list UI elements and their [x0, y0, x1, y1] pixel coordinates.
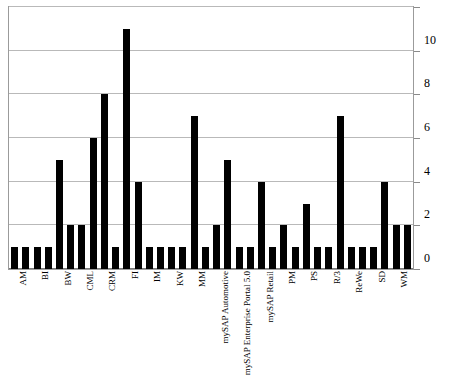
bar — [348, 247, 355, 269]
bar — [359, 247, 366, 269]
y-tick-label: 6 — [424, 121, 430, 133]
x-axis-label: WM — [400, 271, 409, 288]
bar — [123, 29, 130, 269]
bar-series — [9, 7, 413, 269]
y-tick-6 — [414, 138, 420, 139]
bar — [146, 247, 153, 269]
bar — [381, 182, 388, 269]
x-axis-labels: AMBIBWCMLCRMFIIMKWMMmySAP AutomotivemySA… — [9, 271, 413, 392]
bar — [247, 247, 254, 269]
y-tick-8 — [414, 94, 420, 95]
y-tick-2 — [414, 225, 420, 226]
y-tick-12 — [414, 7, 420, 8]
bar — [67, 225, 74, 269]
x-axis-label: CRM — [108, 271, 117, 291]
x-axis-label: MM — [198, 271, 207, 287]
bar — [90, 138, 97, 269]
bar — [337, 116, 344, 269]
x-axis-label: mySAP Automotive — [221, 271, 230, 343]
y-axis: 024681012 — [414, 6, 453, 270]
x-axis-label: AM — [19, 271, 28, 286]
y-tick-label: 4 — [424, 165, 430, 177]
bar — [135, 182, 142, 269]
x-axis-label: SD — [378, 271, 387, 283]
y-tick-label: 0 — [424, 252, 430, 264]
bar — [168, 247, 175, 269]
x-axis-label: R/3 — [333, 271, 342, 284]
y-tick-label: 2 — [424, 208, 430, 220]
x-axis-label: FI — [131, 271, 140, 279]
y-tick-4 — [414, 182, 420, 183]
bar — [303, 204, 310, 270]
bar — [213, 225, 220, 269]
y-tick-0 — [414, 269, 420, 270]
x-axis-label: KW — [176, 271, 185, 286]
bar — [22, 247, 29, 269]
bar — [112, 247, 119, 269]
bar — [325, 247, 332, 269]
bar — [191, 116, 198, 269]
bar — [393, 225, 400, 269]
x-axis-label: mySAP Retail — [266, 271, 275, 322]
bar — [269, 247, 276, 269]
bar — [280, 225, 287, 269]
bar — [157, 247, 164, 269]
y-tick-label: 8 — [424, 77, 430, 89]
bar — [179, 247, 186, 269]
bar — [258, 182, 265, 269]
y-tick-label: 10 — [424, 34, 436, 46]
x-axis-label: ReWe — [355, 271, 364, 293]
bar — [11, 247, 18, 269]
y-tick-label: 12 — [424, 0, 436, 2]
y-tick-10 — [414, 51, 420, 52]
bar — [45, 247, 52, 269]
bar — [101, 94, 108, 269]
bar — [404, 225, 411, 269]
bar — [236, 247, 243, 269]
x-axis-label: CML — [86, 271, 95, 291]
bar — [202, 247, 209, 269]
x-axis-label: BI — [41, 271, 50, 280]
bar — [34, 247, 41, 269]
bar — [56, 160, 63, 269]
x-axis-label: IM — [153, 271, 162, 282]
bar — [224, 160, 231, 269]
bar — [292, 247, 299, 269]
x-axis-label: PM — [288, 271, 297, 284]
bar — [78, 225, 85, 269]
bar-chart: 024681012 AMBIBWCMLCRMFIIMKWMMmySAP Auto… — [0, 0, 453, 392]
bar — [370, 247, 377, 269]
x-axis-label: PS — [310, 271, 319, 281]
x-axis-label: BW — [64, 271, 73, 286]
bar — [314, 247, 321, 269]
x-axis-label: mySAP Enterprise Portal 5.0 — [243, 271, 252, 375]
